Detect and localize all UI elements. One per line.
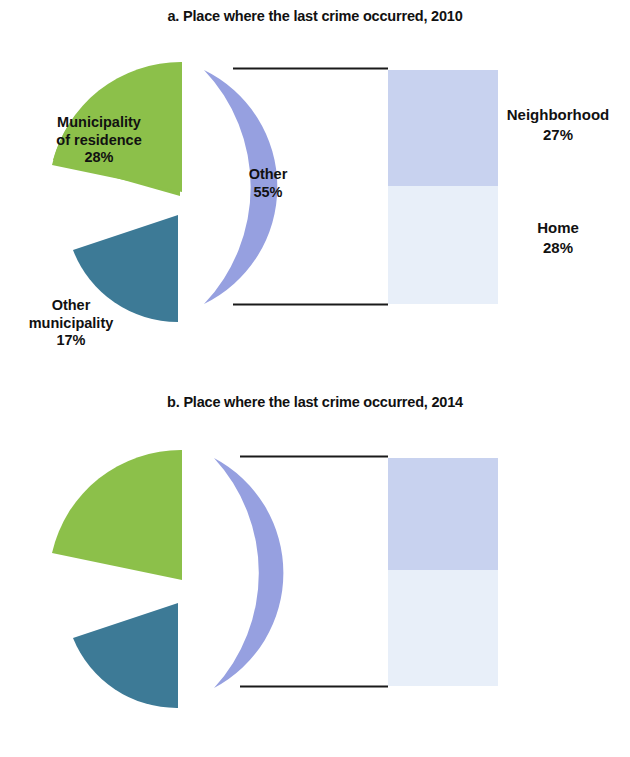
slice-value-other-municipality-a: 17% <box>6 332 136 350</box>
slice-other-b <box>214 458 283 688</box>
slice-label-municipality-a-text: Municipality of residence <box>56 114 141 148</box>
breakout-neighborhood-a <box>388 70 498 186</box>
slice-value-municipality-a: 28% <box>34 149 164 167</box>
slice-municipality-b <box>52 450 182 580</box>
chart-panel-a: a. Place where the last crime occurred, … <box>0 0 630 385</box>
legend-value-home-a: 28% <box>490 238 626 258</box>
slice-label-municipality-a: Municipality of residence 28% <box>34 114 164 185</box>
slice-label-other-a: Other 55% <box>228 166 308 219</box>
slice-label-other-a-text: Other <box>249 166 288 182</box>
legend-label-neighborhood-a: Neighborhood 27% <box>490 105 626 164</box>
slice-other-municipality-b <box>73 603 178 708</box>
chart-panel-b: b. Place where the last crime occurred, … <box>0 385 630 757</box>
slice-label-other-municipality-a: Other municipality 17% <box>6 297 136 368</box>
breakout-home-a <box>388 186 498 304</box>
breakout-neighborhood-b <box>388 458 498 570</box>
panel-b-graphic <box>0 385 630 757</box>
legend-label-neighborhood-a-text: Neighborhood <box>507 106 609 123</box>
legend-value-neighborhood-a: 27% <box>490 125 626 145</box>
slice-value-other-a: 55% <box>228 184 308 202</box>
legend-label-home-a-text: Home <box>537 219 579 236</box>
slice-label-other-municipality-a-text: Other municipality <box>29 297 114 331</box>
breakout-home-b <box>388 570 498 686</box>
legend-label-home-a: Home 28% <box>490 218 626 277</box>
